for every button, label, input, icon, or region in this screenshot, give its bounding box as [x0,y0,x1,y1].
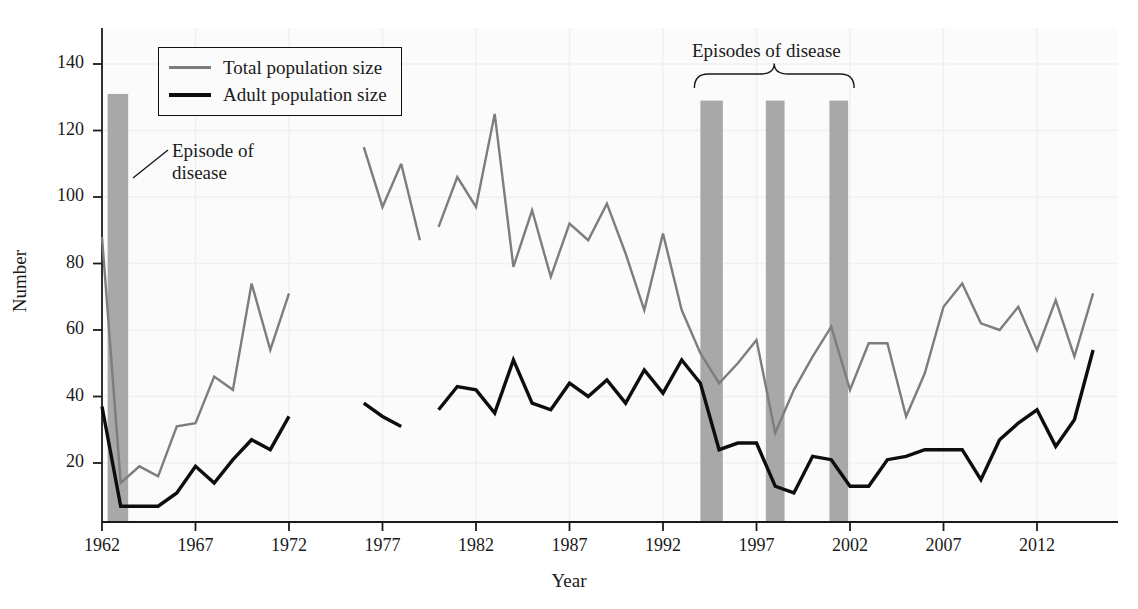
x-axis-title: Year [0,570,1138,592]
y-tick-label: 80 [24,252,84,273]
legend-item-adult: Adult population size [169,81,387,108]
y-tick-label: 100 [24,185,84,206]
x-tick-label: 1967 [156,535,236,556]
x-tick-label: 2002 [810,535,890,556]
y-tick-label: 40 [24,385,84,406]
x-tick-label: 1977 [343,535,423,556]
x-tick-label: 1987 [530,535,610,556]
legend-label-total: Total population size [223,58,382,77]
x-tick-label: 1962 [62,535,142,556]
legend-item-total: Total population size [169,54,387,81]
y-axis-title-wrap: Number [0,0,40,609]
y-tick-label: 140 [24,52,84,73]
y-tick-label: 120 [24,119,84,140]
x-tick-label: 2012 [997,535,1077,556]
x-tick-label: 2007 [904,535,984,556]
annotation-episode-of-disease: Episode of disease [172,140,254,184]
y-axis-title: Number [9,231,31,331]
x-tick-label: 1992 [623,535,703,556]
chart-legend: Total population size Adult population s… [158,47,402,116]
x-tick-label: 1997 [717,535,797,556]
legend-line-total-icon [169,66,211,69]
chart-figure: Number Year 20406080100120140 1962196719… [0,0,1138,609]
y-tick-label: 20 [24,451,84,472]
legend-line-adult-icon [169,93,211,97]
annotation-episodes-of-disease: Episodes of disease [692,40,841,62]
y-tick-label: 60 [24,318,84,339]
legend-label-adult: Adult population size [223,85,387,104]
x-tick-label: 1982 [436,535,516,556]
x-tick-label: 1972 [249,535,329,556]
